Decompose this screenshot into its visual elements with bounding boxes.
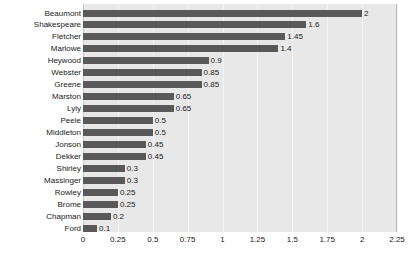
value-label: 0.65: [176, 91, 192, 102]
x-tick-label: 2.25: [389, 234, 405, 246]
x-tick-label: 1.75: [319, 234, 335, 246]
x-tick-label: 0.25: [110, 234, 126, 246]
value-label: 1.4: [280, 43, 291, 54]
value-label: 0.5: [155, 115, 166, 126]
x-tick-label: 1.25: [250, 234, 266, 246]
value-label: 0.1: [99, 223, 110, 234]
value-label: 0.5: [155, 127, 166, 138]
value-label: 0.85: [204, 67, 220, 78]
x-tick-label: 0.5: [147, 234, 158, 246]
value-label: 0.3: [127, 163, 138, 174]
value-label: 2: [364, 8, 368, 19]
value-label: 0.45: [148, 139, 164, 150]
value-labels-layer: 21.61.451.40.90.850.850.650.650.50.50.45…: [0, 0, 410, 258]
value-label: 1.6: [308, 19, 319, 30]
value-label: 0.2: [113, 211, 124, 222]
value-label: 0.45: [148, 151, 164, 162]
value-label: 0.65: [176, 103, 192, 114]
bar-chart: BeaumontShakespeareFletcherMarloweHeywoo…: [0, 0, 410, 258]
x-tick-label: 1.5: [287, 234, 298, 246]
value-label: 1.45: [287, 31, 303, 42]
x-tick-label: 0: [81, 234, 85, 246]
value-label: 0.25: [120, 199, 136, 210]
value-label: 0.9: [211, 55, 222, 66]
value-label: 0.85: [204, 79, 220, 90]
x-tick-label: 2: [360, 234, 364, 246]
value-label: 0.3: [127, 175, 138, 186]
x-axis-tick-labels: 00.250.50.7511.251.51.7522.25: [0, 234, 410, 250]
x-tick-label: 1: [220, 234, 224, 246]
value-label: 0.25: [120, 187, 136, 198]
x-tick-label: 0.75: [180, 234, 196, 246]
